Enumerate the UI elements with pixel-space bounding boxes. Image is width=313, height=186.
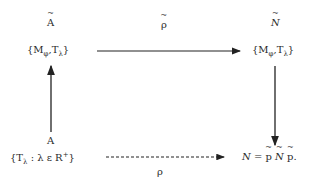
bottom-left-node: {Tλ : λ ε R+} xyxy=(10,152,75,166)
top-arrow-label: ρ xyxy=(161,20,167,30)
node-text: {M xyxy=(27,44,44,55)
node-text: ,T xyxy=(274,44,284,55)
node-text: } xyxy=(288,44,294,55)
p-tilde: p xyxy=(266,152,272,162)
node-text: } xyxy=(63,44,69,55)
bottom-left-label: A xyxy=(47,136,54,146)
p-tilde: p xyxy=(287,152,293,162)
top-right-label: N xyxy=(271,18,280,28)
node-text: {M xyxy=(252,44,269,55)
bottom-right-node: N = p N p. xyxy=(242,152,297,162)
label-n-tilde: N xyxy=(271,18,280,28)
top-right-node: {Mφ,Tλ} xyxy=(252,45,294,58)
top-left-node: {Mφ,Tλ} xyxy=(27,45,69,58)
rho-tilde: ρ xyxy=(161,20,167,30)
bottom-arrow-label: ρ xyxy=(157,167,163,177)
node-text: } xyxy=(69,152,75,163)
top-left-label: A xyxy=(47,18,54,28)
node-text: ,T xyxy=(49,44,59,55)
label-a-tilde: A xyxy=(47,18,54,28)
node-text: . xyxy=(293,151,296,162)
node-text: N = xyxy=(242,151,266,162)
node-text: : λ ε R xyxy=(27,152,62,163)
n-tilde: N xyxy=(275,152,284,162)
node-text: {T xyxy=(10,152,23,163)
